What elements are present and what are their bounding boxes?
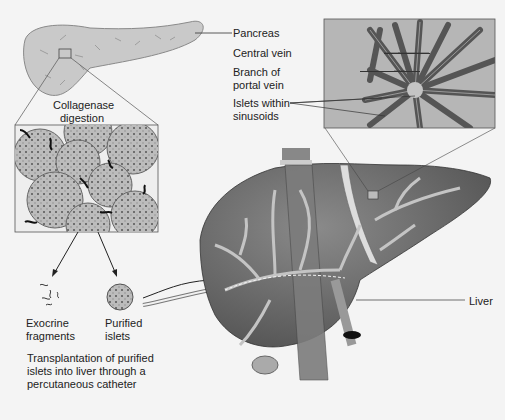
- label-branch-portal-2: portal vein: [233, 79, 284, 91]
- label-transplant-2: islets into liver through a: [27, 365, 146, 377]
- label-islets-sinusoids-1: Islets within: [233, 97, 290, 109]
- label-branch-portal-1: Branch of: [233, 66, 280, 78]
- label-transplant-1: Transplantation of purified: [27, 352, 154, 364]
- label-liver: Liver: [469, 295, 493, 307]
- liver-organ: [200, 148, 491, 380]
- exocrine-fragments-icon: [40, 284, 59, 305]
- liver-lobule-inset: [324, 19, 495, 128]
- purified-islet-icon: [107, 284, 133, 310]
- label-central-vein: Central vein: [233, 47, 292, 59]
- label-pancreas: Pancreas: [233, 27, 279, 39]
- liver-magnify-box: [368, 191, 378, 199]
- label-collagenase-2: digestion: [60, 112, 104, 124]
- central-vein-leader: [384, 53, 430, 54]
- label-purified-2: islets: [105, 330, 130, 342]
- label-purified-1: Purified: [105, 317, 142, 329]
- label-exocrine-1: Exocrine: [26, 317, 69, 329]
- pancreas-organ: [24, 21, 232, 95]
- label-exocrine-2: fragments: [26, 330, 75, 342]
- portal-vein-leader: [360, 71, 420, 72]
- label-collagenase-1: Collagenase: [53, 99, 114, 111]
- label-islets-sinusoids-2: sinusoids: [233, 110, 279, 122]
- digestion-box: [14, 108, 159, 247]
- label-transplant-3: percutaneous catheter: [27, 378, 136, 390]
